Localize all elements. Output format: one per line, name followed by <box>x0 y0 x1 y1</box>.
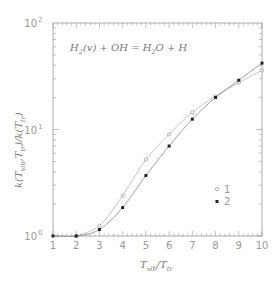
x-tick-label: 3 <box>96 240 102 251</box>
filled-square-marker-icon <box>191 118 194 121</box>
legend-label-2: 2 <box>224 196 230 207</box>
series-1 <box>75 69 264 238</box>
filled-square-marker-icon <box>121 206 124 209</box>
filled-square-marker-icon <box>214 96 217 99</box>
y-tick-exponent: 0 <box>38 229 42 237</box>
y-tick-labels: 100101102 <box>24 16 42 242</box>
open-circle-marker-icon <box>168 133 171 136</box>
chart: 12345678910 100101102 H2(v) + OH = H2O +… <box>0 0 280 284</box>
open-circle-marker-icon <box>121 194 124 197</box>
filled-square-marker-icon <box>75 235 78 238</box>
data-series <box>52 62 264 238</box>
x-tick-label: 2 <box>73 240 79 251</box>
chart-title: H2(v) + OH = H2O + H <box>69 42 188 56</box>
x-tick-label: 1 <box>50 240 56 251</box>
x-tick-label: 9 <box>236 240 242 251</box>
x-tick-label: 6 <box>166 240 172 251</box>
legend-label-1: 1 <box>224 184 230 195</box>
y-tick-label: 10 <box>24 125 37 136</box>
axis-ticks <box>53 23 262 236</box>
x-tick-label: 7 <box>189 240 195 251</box>
filled-square-marker-icon <box>168 144 171 147</box>
x-tick-labels: 12345678910 <box>50 240 269 251</box>
filled-square-marker-icon <box>98 228 101 231</box>
x-tick-label: 10 <box>256 240 269 251</box>
open-circle-marker-icon <box>191 111 194 114</box>
open-circle-marker-icon <box>98 224 101 227</box>
x-tick-label: 4 <box>119 240 125 251</box>
legend: 1 2 <box>215 184 230 207</box>
y-tick-exponent: 2 <box>38 16 42 24</box>
plot-frame <box>53 23 262 236</box>
x-tick-label: 5 <box>143 240 149 251</box>
filled-square-marker-icon <box>52 235 55 238</box>
plot-border <box>53 23 262 236</box>
y-tick-label: 10 <box>24 18 37 29</box>
legend-filled-square-icon <box>216 200 219 203</box>
open-circle-marker-icon <box>144 158 147 161</box>
series-line <box>53 63 262 236</box>
filled-square-marker-icon <box>237 79 240 82</box>
series-2 <box>52 62 264 238</box>
series-line <box>76 70 262 236</box>
x-tick-label: 8 <box>212 240 218 251</box>
legend-open-circle-icon <box>215 187 218 190</box>
filled-square-marker-icon <box>261 62 264 65</box>
y-tick-label: 10 <box>24 231 37 242</box>
filled-square-marker-icon <box>144 174 147 177</box>
y-tick-exponent: 1 <box>38 123 42 131</box>
x-axis-label: Tvib/Ttr <box>140 259 173 273</box>
open-circle-marker-icon <box>260 69 263 72</box>
